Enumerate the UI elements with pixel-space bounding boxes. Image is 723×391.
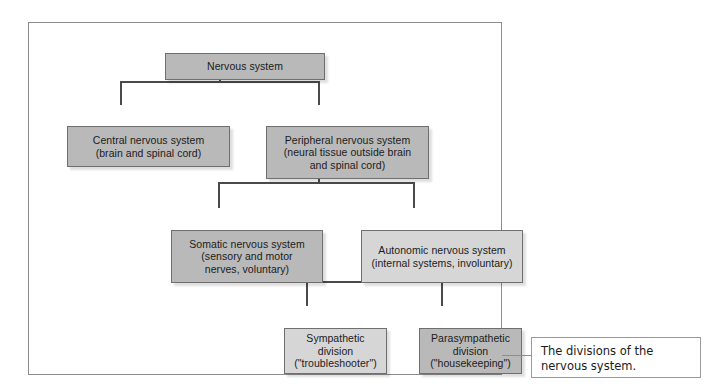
node-peripheral-nervous-system-label: Peripheral nervous system (neural tissue… (284, 134, 411, 172)
node-nervous-system: Nervous system (165, 53, 325, 80)
node-somatic-nervous-system: Somatic nervous system (sensory and moto… (171, 230, 323, 283)
connector-to-parasympathetic (441, 281, 443, 306)
figure-caption-box: The divisions of the nervous system. (531, 337, 701, 378)
node-nervous-system-label: Nervous system (207, 60, 283, 73)
connector-level2-bus (218, 182, 414, 184)
node-central-nervous-system: Central nervous system (brain and spinal… (67, 126, 230, 167)
connector-level1-bus (120, 81, 320, 83)
node-somatic-nervous-system-label: Somatic nervous system (sensory and moto… (189, 238, 304, 276)
connector-to-somatic (218, 182, 220, 208)
connector-to-sympathetic (306, 281, 308, 306)
diagram-frame: Nervous system Central nervous system (b… (28, 22, 502, 375)
figure-caption-text: The divisions of the nervous system. (541, 344, 691, 374)
node-autonomic-nervous-system: Autonomic nervous system (internal syste… (361, 230, 523, 283)
connector-to-central (120, 81, 122, 105)
node-parasympathetic-division-label: Parasympathetic division ("housekeeping"… (430, 332, 511, 370)
connector-to-peripheral (318, 81, 320, 105)
node-parasympathetic-division: Parasympathetic division ("housekeeping"… (419, 328, 522, 374)
caption-leader-line (502, 355, 532, 356)
node-autonomic-nervous-system-label: Autonomic nervous system (internal syste… (371, 244, 512, 269)
node-peripheral-nervous-system: Peripheral nervous system (neural tissue… (266, 126, 429, 179)
connector-to-autonomic (413, 182, 415, 208)
node-central-nervous-system-label: Central nervous system (brain and spinal… (93, 134, 204, 159)
node-sympathetic-division-label: Sympathetic division ("troubleshooter") (294, 332, 376, 370)
node-sympathetic-division: Sympathetic division ("troubleshooter") (284, 328, 387, 374)
